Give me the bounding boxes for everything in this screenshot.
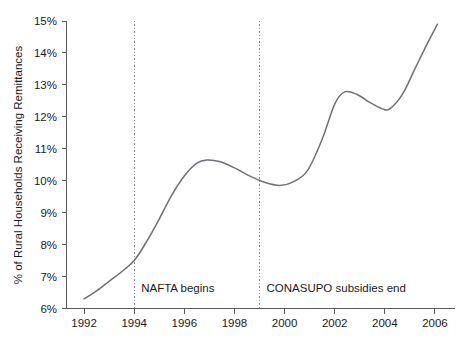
series-line-remittances xyxy=(84,24,437,299)
y-axis-title-group: % of Rural Households Receiving Remittan… xyxy=(12,46,24,285)
y-tick-label: 15% xyxy=(34,15,57,27)
y-tick-label: 9% xyxy=(40,207,57,219)
event-marker-labels: NAFTA beginsCONASUPO subsidies end xyxy=(141,282,406,294)
y-tick-label: 14% xyxy=(34,47,57,59)
x-tick-label: 1994 xyxy=(121,317,147,329)
x-tick-label: 2006 xyxy=(422,317,448,329)
x-tick-label: 1998 xyxy=(222,317,248,329)
x-tick-label: 2002 xyxy=(322,317,348,329)
x-axis-ticks: 19921994199619982000200220042006 xyxy=(71,309,447,330)
y-tick-label: 12% xyxy=(34,111,57,123)
event-marker-lines xyxy=(134,21,259,309)
y-tick-label: 6% xyxy=(40,303,57,315)
remittances-line-chart: 6%7%8%9%10%11%12%13%14%15% 1992199419961… xyxy=(0,0,466,341)
y-axis-ticks: 6%7%8%9%10%11%12%13%14%15% xyxy=(34,15,67,315)
x-tick-label: 2000 xyxy=(272,317,298,329)
x-tick-label: 1992 xyxy=(71,317,97,329)
plot-series-group xyxy=(84,24,437,299)
y-tick-label: 10% xyxy=(34,175,57,187)
chart-container: 6%7%8%9%10%11%12%13%14%15% 1992199419961… xyxy=(0,0,466,341)
y-tick-label: 8% xyxy=(40,239,57,251)
event-label-2: CONASUPO subsidies end xyxy=(266,282,405,294)
x-tick-label: 2004 xyxy=(372,317,398,329)
y-axis-title: % of Rural Households Receiving Remittan… xyxy=(12,46,24,285)
event-label-1: NAFTA begins xyxy=(141,282,215,294)
y-tick-label: 11% xyxy=(35,143,57,155)
y-tick-label: 13% xyxy=(34,79,57,91)
y-tick-label: 7% xyxy=(40,271,57,283)
x-tick-label: 1996 xyxy=(172,317,198,329)
